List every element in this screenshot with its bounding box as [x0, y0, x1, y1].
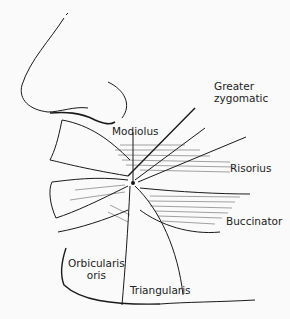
modiolus-point [131, 181, 135, 185]
label-line: oris [68, 269, 125, 281]
face-muscle-drawing [0, 0, 290, 319]
label-line: Greater [214, 80, 268, 92]
label-buccinator: Buccinator [226, 215, 282, 227]
label-greater-zygomatic: Greater zygomatic [214, 80, 268, 104]
label-line: Orbicularis [68, 257, 125, 269]
label-line: zygomatic [214, 92, 268, 104]
label-risorius: Risorius [230, 162, 271, 174]
label-triangularis: Triangularis [130, 284, 191, 296]
anatomy-diagram: Greater zygomatic Modiolus Risorius Bucc… [0, 0, 290, 319]
label-orbicularis-oris: Orbicularis oris [68, 257, 125, 281]
label-modiolus: Modiolus [112, 125, 159, 137]
